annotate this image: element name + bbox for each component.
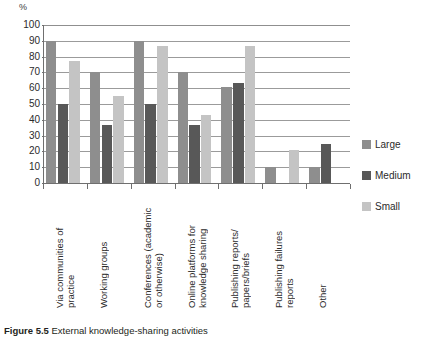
x-tickmark-4: [218, 184, 219, 189]
figure-caption-label: Figure 5.5: [4, 325, 49, 336]
legend-swatch-icon-large: [362, 140, 371, 149]
bar-large-0: [46, 41, 57, 183]
y-tick-label-80: 80: [10, 52, 40, 62]
gridline-100: [43, 25, 350, 26]
y-tick-label-20: 20: [10, 146, 40, 156]
gridline-90: [43, 41, 350, 42]
bar-small-2: [157, 46, 168, 183]
figure-caption: Figure 5.5 External knowledge-sharing ac…: [4, 325, 208, 337]
x-tickmark-2: [131, 184, 132, 189]
x-tickmark-3: [175, 184, 176, 189]
bar-small-5: [289, 150, 300, 183]
chart-legend: LargeMediumSmall: [362, 138, 430, 231]
x-tickmark-5: [262, 184, 263, 189]
legend-item-small: Small: [362, 200, 430, 212]
y-tick-label-50: 50: [10, 99, 40, 109]
gridline-80: [43, 57, 350, 58]
bar-medium-0: [58, 104, 69, 183]
x-axis-line: [43, 183, 350, 184]
x-category-label-3: Online platforms for knowledge sharing: [186, 190, 208, 308]
x-category-label-6: Other: [317, 190, 328, 308]
bar-medium-3: [189, 125, 200, 183]
x-axis-category-labels: Via communities of practiceWorking group…: [43, 190, 350, 310]
legend-item-medium: Medium: [362, 169, 430, 181]
y-tick-label-100: 100: [10, 20, 40, 30]
legend-label-medium: Medium: [375, 170, 411, 181]
x-category-label-4: Publishing reports/ papers/briefs: [229, 190, 251, 308]
bar-large-1: [90, 72, 101, 183]
bar-medium-6: [321, 144, 332, 184]
bar-medium-1: [102, 125, 113, 183]
bar-small-1: [113, 96, 124, 183]
bar-medium-2: [145, 104, 156, 183]
bar-large-5: [265, 167, 276, 183]
x-tickmark-0: [43, 184, 44, 189]
y-tick-label-40: 40: [10, 115, 40, 125]
bar-small-4: [245, 46, 256, 183]
y-tick-label-90: 90: [10, 36, 40, 46]
figure-external-knowledge-sharing: % 1009080706050403020100 Via communities…: [0, 0, 431, 346]
x-category-label-0: Via communities of practice: [54, 190, 76, 308]
y-tick-label-30: 30: [10, 131, 40, 141]
y-tick-label-0: 0: [10, 178, 40, 188]
bar-large-3: [178, 72, 189, 183]
x-category-label-5: Publishing failures reports: [273, 190, 295, 308]
figure-caption-text: External knowledge-sharing activities: [52, 325, 208, 336]
legend-label-small: Small: [375, 201, 400, 212]
bar-medium-4: [233, 83, 244, 183]
x-tickmark-7: [350, 184, 351, 189]
y-tick-label-60: 60: [10, 83, 40, 93]
y-axis-line: [43, 25, 44, 184]
bar-large-6: [309, 167, 320, 183]
bar-large-2: [134, 41, 145, 183]
legend-item-large: Large: [362, 138, 430, 150]
x-category-label-1: Working groups: [98, 190, 109, 308]
bar-small-0: [69, 61, 80, 183]
bar-small-3: [201, 115, 212, 183]
x-tickmark-6: [306, 184, 307, 189]
y-axis-tick-labels: 1009080706050403020100: [4, 0, 40, 346]
plot-area: [43, 25, 350, 183]
bar-large-4: [221, 87, 232, 183]
legend-swatch-icon-small: [362, 202, 371, 211]
y-tick-label-70: 70: [10, 67, 40, 77]
y-tick-label-10: 10: [10, 162, 40, 172]
x-category-label-2: Conferences (academic or otherwise): [142, 190, 164, 308]
x-tickmark-1: [87, 184, 88, 189]
legend-swatch-icon-medium: [362, 171, 371, 180]
legend-label-large: Large: [375, 139, 401, 150]
